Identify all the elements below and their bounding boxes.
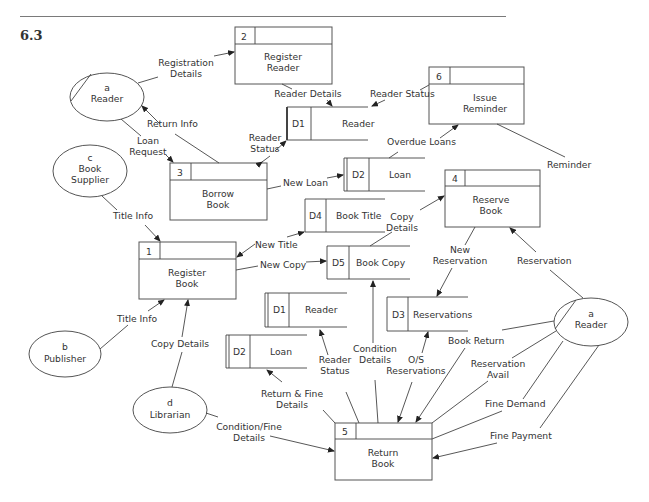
svg-text:Book Return: Book Return [448,335,504,346]
datastore-d1-reader-lower[interactable]: D1 Reader [265,293,347,327]
svg-text:Book: Book [176,278,200,289]
svg-text:Book Copy: Book Copy [356,257,406,268]
svg-text:Status: Status [320,365,349,376]
svg-text:Reader: Reader [319,354,352,365]
svg-text:Librarian: Librarian [150,409,191,420]
entity-a-reader-top[interactable]: a Reader [70,73,144,121]
process-issue-reminder[interactable]: 6 Issue Reminder [429,67,524,124]
flow-overdue-loans: Overdue Loans [387,125,458,158]
flow-new-title: New Title [237,232,304,257]
svg-text:Reader: Reader [575,319,608,330]
svg-text:a: a [588,308,594,319]
svg-text:Registration: Registration [158,57,214,68]
datastore-d5-book-copy[interactable]: D5 Book Copy [327,246,410,279]
svg-text:Status: Status [250,143,279,154]
entity-a-reader-bottom[interactable]: a Reader [554,298,628,346]
svg-text:Publisher: Publisher [44,353,86,364]
svg-text:D4: D4 [309,210,322,221]
svg-text:Fine Payment: Fine Payment [490,430,552,441]
svg-text:Overdue Loans: Overdue Loans [387,136,456,147]
svg-text:Avail: Avail [487,369,509,380]
svg-text:D2: D2 [352,169,365,180]
svg-text:D2: D2 [233,346,246,357]
svg-text:Title Info: Title Info [116,313,157,324]
flow-new-loan: New Loan [267,175,343,189]
svg-text:Details: Details [386,222,418,233]
svg-text:Book: Book [79,163,103,174]
svg-text:Book: Book [372,458,396,469]
svg-text:Loan: Loan [270,346,292,357]
svg-text:Return & Fine: Return & Fine [261,388,323,399]
svg-text:5: 5 [342,426,348,437]
svg-text:Borrow: Borrow [202,188,235,199]
svg-text:d: d [167,397,173,408]
datastore-d2-loan-lower[interactable]: D2 Loan [226,335,307,368]
flow-reminder: Reminder [497,124,591,170]
entity-b-publisher[interactable]: b Publisher [29,331,101,377]
svg-text:D5: D5 [332,257,345,268]
datastore-d3-reservations[interactable]: D3 Reservations [387,297,473,331]
svg-text:Condition: Condition [353,343,397,354]
svg-text:New: New [450,244,471,255]
flow-copy-details-librarian: Copy Details [151,300,209,387]
svg-text:Reminder: Reminder [547,159,591,170]
flow-registration-details: Registration Details [138,52,234,83]
flow-reader-details: Reader Details [274,84,341,106]
svg-text:Loan: Loan [389,169,411,180]
svg-text:Book: Book [480,205,504,216]
svg-text:b: b [62,341,68,352]
svg-text:Details: Details [276,399,308,410]
flow-reader-status-mid: Reader Status [249,132,286,162]
entity-c-book-supplier[interactable]: c Book Supplier [53,145,127,197]
data-flow-diagram: 2 Register Reader 6 Issue Reminder 3 Bor… [0,0,649,502]
svg-text:Reservations: Reservations [386,365,446,376]
process-reserve-book[interactable]: 4 Reserve Book [445,170,540,227]
svg-text:Register: Register [264,51,302,62]
flow-fine-demand: Fine Demand [432,341,563,439]
svg-text:6: 6 [436,71,442,82]
svg-text:Fine Demand: Fine Demand [485,398,546,409]
svg-text:Details: Details [233,432,265,443]
svg-text:Reader Status: Reader Status [370,88,435,99]
svg-text:D3: D3 [392,309,405,320]
process-borrow-book[interactable]: 3 Borrow Book [170,163,267,220]
svg-text:Copy: Copy [390,211,414,222]
datastore-d1-reader[interactable]: D1 Reader [287,107,375,140]
datastore-d2-loan[interactable]: D2 Loan [344,158,425,191]
svg-text:Reader: Reader [267,62,300,73]
process-register-reader[interactable]: 2 Register Reader [235,27,332,84]
svg-text:Details: Details [359,354,391,365]
svg-text:3: 3 [177,167,183,178]
svg-text:Reservation: Reservation [433,255,488,266]
svg-text:Request: Request [129,146,167,157]
flow-return-fine-details: Return & Fine Details [261,370,335,423]
svg-text:c: c [87,152,92,163]
svg-text:Issue: Issue [473,92,497,103]
svg-text:Copy Details: Copy Details [151,338,209,349]
svg-text:New Copy: New Copy [260,259,307,270]
flow-condition-fine-details: Condition/Fine Details [206,413,334,451]
svg-text:Reader: Reader [249,132,282,143]
svg-text:Loan: Loan [137,135,159,146]
svg-text:Reservations: Reservations [413,309,473,320]
svg-text:Reservation: Reservation [471,358,526,369]
svg-text:4: 4 [452,173,458,184]
flow-reservation: Reservation [510,228,583,298]
svg-text:Reader: Reader [91,93,124,104]
svg-text:Condition/Fine: Condition/Fine [216,421,282,432]
entity-d-librarian[interactable]: d Librarian [133,387,207,433]
svg-text:Reader: Reader [342,118,375,129]
svg-text:a: a [104,82,110,93]
process-return-book[interactable]: 5 Return Book [335,423,432,480]
flow-new-reservation: New Reservation [433,227,488,296]
svg-text:New Loan: New Loan [283,177,328,188]
datastore-d4-book-title[interactable]: D4 Book Title [305,199,385,232]
svg-text:2: 2 [241,31,247,42]
flow-condition-details: Condition Details [353,281,397,423]
svg-text:Title Info: Title Info [112,210,153,221]
svg-text:Reserve: Reserve [473,194,510,205]
flow-new-copy: New Copy [236,259,326,270]
process-register-book[interactable]: 1 Register Book [139,242,236,299]
svg-text:Details: Details [170,68,202,79]
svg-text:New Title: New Title [255,239,298,250]
